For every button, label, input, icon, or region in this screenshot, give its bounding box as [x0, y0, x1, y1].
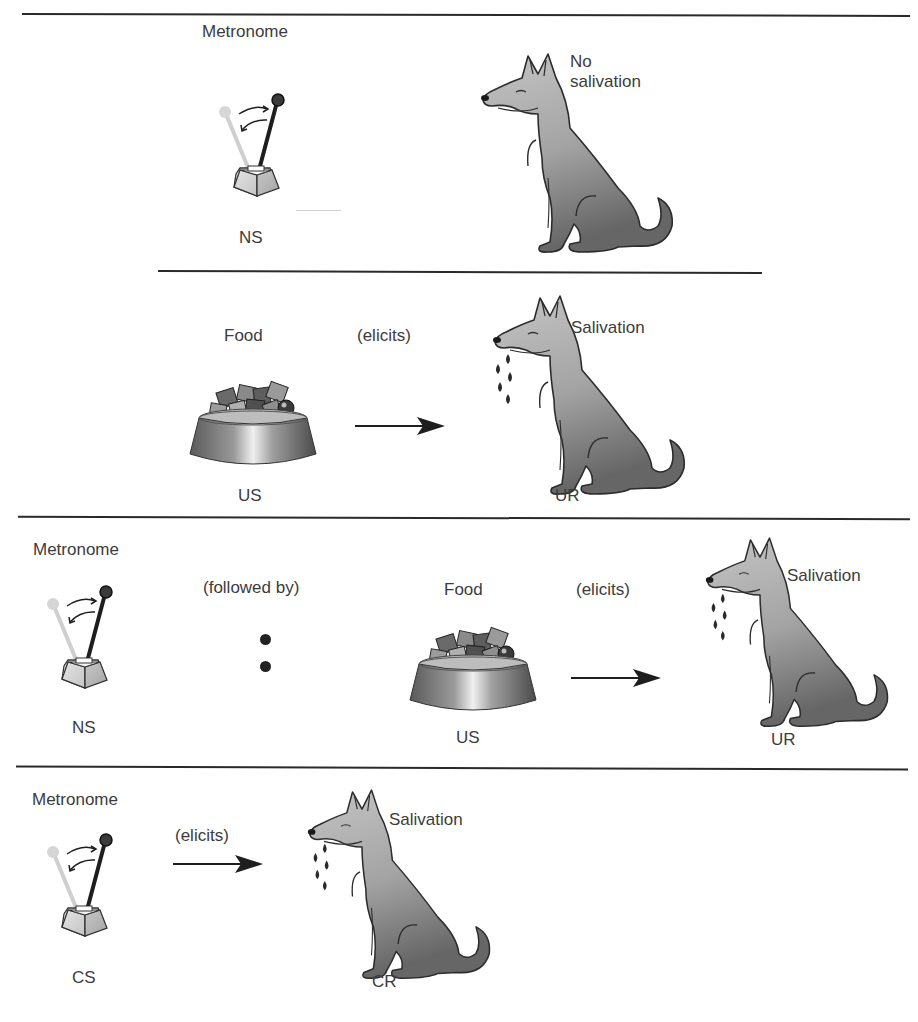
response-code: UR [555, 486, 580, 506]
metronome-icon [212, 92, 302, 202]
panel-divider-3 [16, 766, 908, 771]
response-code: CR [372, 972, 397, 992]
stimulus-2-label: Food [444, 580, 483, 600]
arrow-right-icon [355, 416, 445, 436]
stimulus-label: Metronome [32, 790, 118, 810]
stimulus-code: NS [239, 228, 263, 248]
saliva-drops-icon [490, 350, 520, 410]
response-label: No salivation [570, 52, 641, 91]
stimulus-label: Metronome [33, 540, 119, 560]
stimulus-2-code: US [456, 728, 480, 748]
relation-label: (elicits) [175, 826, 229, 846]
stimulus-code: US [238, 486, 262, 506]
shadow-line [296, 210, 341, 211]
saliva-drops-icon [308, 840, 336, 896]
metronome-icon [40, 584, 130, 694]
panel-divider-1 [158, 270, 762, 274]
stimulus-code: NS [72, 718, 96, 738]
relation-label-elicits: (elicits) [576, 580, 630, 600]
top-divider [22, 13, 910, 17]
stimulus-label: Metronome [202, 22, 288, 42]
response-line-2: salivation [570, 72, 641, 92]
panel-divider-2 [18, 516, 910, 520]
relation-label-followed-by: (followed by) [203, 578, 299, 598]
arrow-right-icon [571, 668, 661, 688]
stimulus-code: CS [72, 968, 96, 988]
response-code: UR [771, 730, 796, 750]
response-line-1: No [570, 52, 641, 72]
food-bowl-icon [188, 380, 318, 470]
stimulus-label: Food [224, 326, 263, 346]
response-label: Salivation [787, 566, 861, 586]
metronome-icon [40, 832, 130, 942]
food-bowl-icon [408, 626, 538, 716]
response-label: Salivation [389, 810, 463, 830]
relation-label: (elicits) [357, 326, 411, 346]
colon-dots-icon [260, 634, 272, 674]
response-label: Salivation [571, 318, 645, 338]
saliva-drops-icon [706, 590, 734, 646]
arrow-right-icon [173, 854, 263, 874]
